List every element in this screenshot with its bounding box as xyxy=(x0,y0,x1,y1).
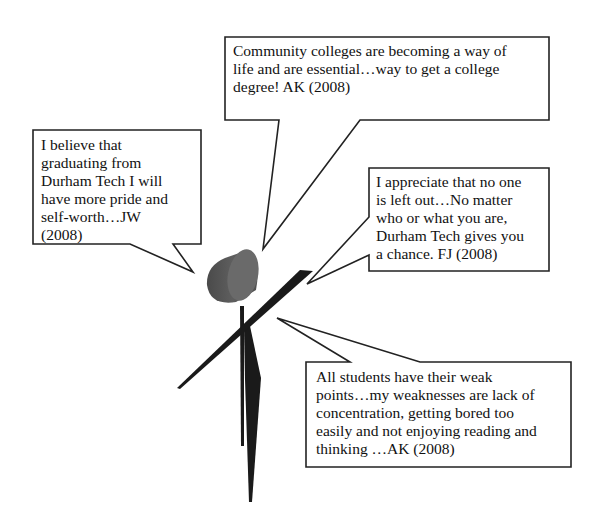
bubble-text-bottom: All students have their weak points…my w… xyxy=(316,368,566,458)
bubble-text-right: I appreciate that no one is left out…No … xyxy=(376,173,548,263)
stick-leg-right xyxy=(244,326,261,502)
cylinder-head xyxy=(207,246,263,303)
bubble-text-left: I believe that graduating from Durham Te… xyxy=(41,136,199,244)
bubble-text-top: Community colleges are becoming a way of… xyxy=(233,42,545,96)
figure-canvas: Community colleges are becoming a way of… xyxy=(0,0,597,518)
stick-figure xyxy=(177,246,313,502)
